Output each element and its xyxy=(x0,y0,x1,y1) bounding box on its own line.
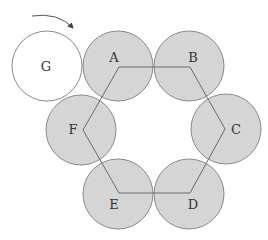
coin-b xyxy=(154,31,224,101)
label-c: C xyxy=(231,122,241,137)
coin-c xyxy=(191,94,261,164)
coin-f xyxy=(46,95,116,165)
coin-e xyxy=(83,159,153,229)
curved-arrow-icon xyxy=(32,15,73,28)
coin-d xyxy=(154,159,224,229)
label-e: E xyxy=(109,197,119,212)
label-g: G xyxy=(41,59,51,74)
coin-a xyxy=(83,31,153,101)
label-a: A xyxy=(108,50,119,65)
label-d: D xyxy=(188,197,198,212)
coin-diagram: G A B C D E F xyxy=(0,0,268,240)
label-b: B xyxy=(188,50,198,65)
label-f: F xyxy=(68,122,77,137)
